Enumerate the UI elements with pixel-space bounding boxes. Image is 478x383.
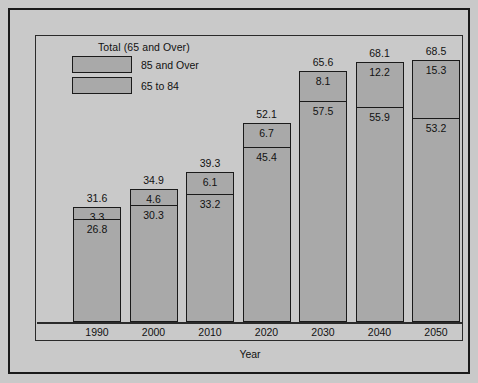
bar-segment-65-to-84[interactable]: 26.8 <box>73 220 121 323</box>
legend-title: Total (65 and Over) <box>98 41 302 53</box>
x-tick-label: 2000 <box>124 326 184 338</box>
bar-segment-label: 55.9 <box>357 111 403 123</box>
bar-segment-label: 33.2 <box>187 198 233 210</box>
bar-segment-65-to-84[interactable]: 45.4 <box>243 148 291 322</box>
bar-segment-label: 6.7 <box>244 127 290 139</box>
bar-total-label: 68.5 <box>406 45 466 57</box>
bar-stack[interactable]: 65.68.157.52030 <box>299 71 347 322</box>
bar-segment-label: 6.1 <box>187 176 233 188</box>
bar-segment-label: 53.2 <box>413 122 459 134</box>
bar-segment-label: 8.1 <box>300 75 346 87</box>
bar-segment-label: 12.2 <box>357 66 403 78</box>
bar-segment-65-to-84[interactable]: 30.3 <box>130 206 178 322</box>
bar-total-label: 31.6 <box>67 192 127 204</box>
legend: Total (65 and Over) 85 and Over 65 to 84 <box>72 41 302 98</box>
bar-segment-85-and-over[interactable]: 15.3 <box>412 60 460 119</box>
legend-item-85-and-over: 85 and Over <box>72 56 302 73</box>
bar-total-label: 68.1 <box>350 47 410 59</box>
bar-segment-label: 4.6 <box>131 193 177 205</box>
bar-group: 65.68.157.52030 <box>299 71 347 322</box>
x-tick-label: 2040 <box>350 326 410 338</box>
bar-group: 34.94.630.32000 <box>130 189 178 322</box>
x-tick-label: 2050 <box>406 326 466 338</box>
x-tick-label: 2020 <box>237 326 297 338</box>
bar-stack[interactable]: 39.36.133.22010 <box>186 172 234 322</box>
bar-segment-65-to-84[interactable]: 57.5 <box>299 102 347 322</box>
bar-segment-85-and-over[interactable]: 6.7 <box>243 123 291 149</box>
bar-group: 39.36.133.22010 <box>186 172 234 322</box>
bar-total-label: 34.9 <box>124 174 184 186</box>
bar-segment-85-and-over[interactable]: 12.2 <box>356 62 404 109</box>
legend-label-85-and-over: 85 and Over <box>141 59 199 71</box>
bar-stack[interactable]: 68.515.353.22050 <box>412 60 460 322</box>
x-axis-title: Year <box>36 348 464 360</box>
bar-segment-85-and-over[interactable]: 3.3 <box>73 207 121 220</box>
bar-group: 52.16.745.42020 <box>243 123 291 322</box>
bar-group: 68.515.353.22050 <box>412 60 460 322</box>
legend-item-65-to-84: 65 to 84 <box>72 77 302 94</box>
x-axis-line <box>37 322 463 324</box>
legend-label-65-to-84: 65 to 84 <box>141 80 179 92</box>
bar-stack[interactable]: 31.63.326.81990 <box>73 207 121 322</box>
bar-segment-label: 15.3 <box>413 64 459 76</box>
plot-frame: 31.63.326.8199034.94.630.3200039.36.133.… <box>35 35 463 341</box>
legend-swatch-65-to-84 <box>72 77 132 94</box>
figure: 31.63.326.8199034.94.630.3200039.36.133.… <box>0 0 478 383</box>
bar-stack[interactable]: 34.94.630.32000 <box>130 189 178 322</box>
bar-stack[interactable]: 68.112.255.92040 <box>356 62 404 322</box>
x-tick-label: 2030 <box>293 326 353 338</box>
bar-segment-85-and-over[interactable]: 6.1 <box>186 172 234 195</box>
legend-swatch-85-and-over <box>72 56 132 73</box>
bar-group: 68.112.255.92040 <box>356 62 404 322</box>
bar-segment-65-to-84[interactable]: 55.9 <box>356 108 404 322</box>
figure-outer-border: 31.63.326.8199034.94.630.3200039.36.133.… <box>8 8 470 374</box>
bar-group: 31.63.326.81990 <box>73 207 121 322</box>
bar-stack[interactable]: 52.16.745.42020 <box>243 123 291 322</box>
bar-segment-label: 26.8 <box>74 223 120 235</box>
bar-total-label: 52.1 <box>237 108 297 120</box>
bar-total-label: 65.6 <box>293 56 353 68</box>
bar-segment-85-and-over[interactable]: 4.6 <box>130 189 178 207</box>
bar-segment-85-and-over[interactable]: 8.1 <box>299 71 347 102</box>
x-tick-label: 2010 <box>180 326 240 338</box>
bar-segment-label: 57.5 <box>300 105 346 117</box>
x-tick-label: 1990 <box>67 326 127 338</box>
bar-segment-65-to-84[interactable]: 33.2 <box>186 195 234 322</box>
bar-total-label: 39.3 <box>180 157 240 169</box>
bar-segment-label: 30.3 <box>131 209 177 221</box>
bar-segment-label: 45.4 <box>244 151 290 163</box>
bar-segment-65-to-84[interactable]: 53.2 <box>412 119 460 322</box>
